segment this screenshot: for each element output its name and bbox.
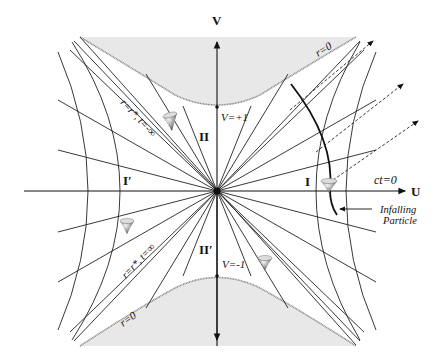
infalling-label-line2: Particle [382,215,417,226]
v-plus-label: V=+1 [221,111,248,123]
past-singularity-region [80,278,356,347]
u-axis-label: U [411,184,421,199]
v-minus-label: V=-1 [222,258,245,270]
origin-point [214,188,221,195]
region-II-prime-label: II′ [199,242,213,257]
region-I-prime-label: I′ [123,173,132,188]
region-I-label: I [305,174,310,189]
infalling-label-line1: Infalling [379,204,416,215]
ct-label: ct=0 [374,173,397,187]
light-cone-icon [120,219,134,235]
v-axis-label: V [212,13,222,28]
horizon-past-label: r=r*, t=∞ [119,241,157,280]
light-cone-icon [163,111,178,131]
kruskal-diagram: V U ct=0 II II′ I′ I V=+1 V=-1 r=0 r=0 r… [0,0,440,363]
region-II-label: II [199,129,209,144]
